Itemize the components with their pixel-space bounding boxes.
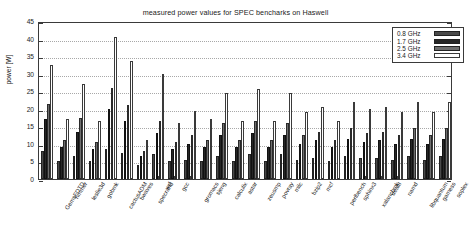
bar-group — [89, 23, 101, 179]
bar-series-container — [39, 23, 451, 179]
bar-group — [375, 23, 387, 179]
x-axis-tick-label: bzip2 — [310, 181, 323, 196]
bar — [432, 112, 435, 179]
bar-group — [152, 23, 164, 179]
bar-group — [168, 23, 180, 179]
legend-item: 0.8 GHz — [397, 30, 460, 37]
plot-area — [38, 22, 452, 180]
bar-group — [312, 23, 324, 179]
legend-swatch — [434, 39, 460, 44]
chart-title: measured power values for SPEC bencharks… — [0, 8, 471, 17]
bar — [50, 65, 53, 179]
bar-group — [359, 23, 371, 179]
bar-group — [41, 23, 53, 179]
legend-swatch — [434, 46, 460, 51]
bar — [114, 37, 117, 179]
bar-group — [73, 23, 85, 179]
bar — [289, 93, 292, 179]
bar — [353, 102, 356, 179]
legend-label: 3.4 GHz — [397, 52, 431, 59]
legend-swatch — [434, 31, 460, 36]
bar-group — [216, 23, 228, 179]
bar-group — [296, 23, 308, 179]
legend-item: 1.7 GHz — [397, 37, 460, 44]
bar — [225, 93, 228, 179]
bar — [321, 107, 324, 179]
bar — [130, 61, 133, 179]
bar — [385, 107, 388, 179]
bar — [305, 112, 308, 179]
legend-swatch — [434, 53, 460, 58]
y-axis-tick-label: 20 — [0, 106, 34, 113]
bar-group — [121, 23, 133, 179]
y-axis-tick-label: 45 — [0, 18, 34, 25]
legend-label: 0.8 GHz — [397, 30, 431, 37]
y-axis-tick-label: 15 — [0, 123, 34, 130]
bar — [194, 111, 197, 179]
bar-group — [105, 23, 117, 179]
x-axis-tick-label: gobmk — [105, 181, 119, 199]
bar-group — [57, 23, 69, 179]
legend-item: 2.5 GHz — [397, 45, 460, 52]
bar-group — [137, 23, 149, 179]
bar — [337, 121, 340, 179]
bar-group — [184, 23, 196, 179]
bar-group — [200, 23, 212, 179]
x-axis-tick-label: gcc — [181, 181, 191, 192]
bar — [369, 109, 372, 179]
bar-group — [248, 23, 260, 179]
bar — [98, 121, 101, 179]
bar-group — [232, 23, 244, 179]
bar-group — [280, 23, 292, 179]
x-axis-tick-label: dealII — [390, 181, 403, 196]
bar — [210, 119, 213, 179]
bar — [66, 119, 69, 179]
x-axis-tick-label: soplex — [455, 181, 469, 199]
y-axis-tick-label: 0 — [0, 176, 34, 183]
bar — [401, 112, 404, 179]
y-axis-label: power [W] — [5, 40, 12, 100]
legend-item: 3.4 GHz — [397, 52, 460, 59]
x-axis-tick-label: mcf — [324, 181, 334, 192]
bar — [178, 123, 181, 179]
legend: 0.8 GHz1.7 GHz2.5 GHz3.4 GHz — [392, 27, 464, 63]
x-axis-tick-label: leslie3d — [90, 181, 106, 201]
bar-group — [328, 23, 340, 179]
bar — [241, 121, 244, 179]
bar — [448, 102, 451, 179]
y-axis-tick-label: 5 — [0, 158, 34, 165]
x-axis-tick-label: namd — [406, 181, 419, 197]
bar-group — [344, 23, 356, 179]
legend-label: 2.5 GHz — [397, 45, 431, 52]
bar — [273, 121, 276, 179]
x-axis-tick-label: zeusmp — [266, 181, 282, 202]
bar — [162, 74, 165, 179]
power-bar-chart: measured power values for SPEC bencharks… — [0, 0, 471, 229]
bar — [146, 140, 149, 179]
x-axis-tick-labels: GemsFDTDhmmerleslie3dgobmkcactusADMbwave… — [38, 181, 452, 229]
bar — [257, 89, 260, 179]
bar — [417, 102, 420, 179]
y-axis-tick-label: 10 — [0, 141, 34, 148]
bar-group — [264, 23, 276, 179]
bar — [82, 84, 85, 179]
legend-label: 1.7 GHz — [397, 38, 431, 45]
